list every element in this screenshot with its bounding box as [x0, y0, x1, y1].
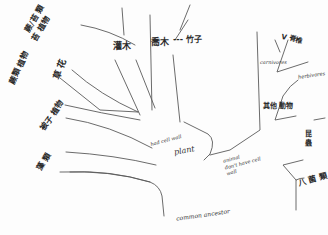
branch-tree-2 [173, 55, 180, 122]
trunk-left-line [60, 172, 164, 216]
branch-bamboo-top [180, 5, 190, 30]
right-edge-line [314, 118, 325, 120]
branch-flowers [72, 70, 138, 112]
label-insect: 昆 蟲 [304, 130, 311, 146]
herbivore-line [275, 80, 298, 120]
label-shrub: 灌木 [113, 42, 131, 51]
animal-main-line [210, 32, 260, 155]
vertebrate-line [275, 40, 280, 52]
sketch-canvas: 蕨/苔 類 苔 植物 蕨類 植物 草 花 被子 植物 藻 類 灌木 喬木 ---… [0, 0, 328, 235]
vertebrate-fork [277, 40, 308, 72]
label-carnivores: carnivores [260, 60, 287, 65]
branch-algae-1 [66, 118, 152, 148]
branch-algae-3 [70, 172, 150, 182]
label-other-animal: 其他 動物 [263, 103, 293, 110]
label-bamboo: --- 竹子 [173, 36, 202, 44]
label-tree: 喬木 [151, 38, 169, 47]
branch-algae-2 [66, 152, 156, 165]
branch-vertical-top [122, 8, 124, 35]
